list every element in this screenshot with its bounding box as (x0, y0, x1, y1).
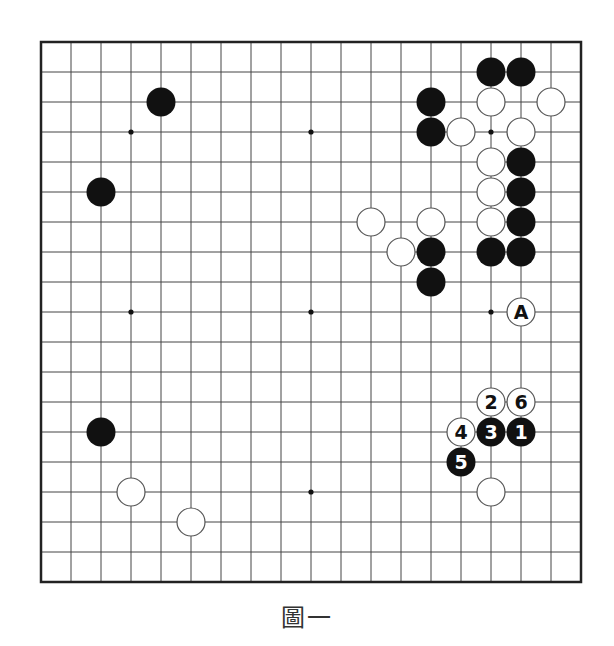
white-stone (477, 208, 505, 236)
black-stone-5: 5 (447, 448, 476, 477)
black-stone (507, 148, 536, 177)
star-point (128, 129, 133, 134)
stone-label: 3 (484, 421, 497, 443)
star-point (308, 489, 313, 494)
star-point (488, 309, 493, 314)
star-point (308, 309, 313, 314)
star-point (488, 129, 493, 134)
white-stone (477, 88, 505, 116)
white-stone (477, 478, 505, 506)
go-board: A264315 (0, 0, 614, 600)
white-stone-2: 2 (477, 388, 505, 416)
white-stone (177, 508, 205, 536)
black-stone (477, 238, 506, 267)
black-stone (147, 88, 176, 117)
black-stone (417, 238, 446, 267)
white-stone-6: 6 (507, 388, 535, 416)
white-stone-A: A (507, 298, 535, 326)
white-stone (417, 208, 445, 236)
black-stone (417, 88, 446, 117)
star-point (128, 309, 133, 314)
black-stone (507, 178, 536, 207)
black-stone (417, 118, 446, 147)
black-stone (477, 58, 506, 87)
white-stone (537, 88, 565, 116)
black-stone (507, 238, 536, 267)
white-stone (387, 238, 415, 266)
stone-label: 5 (454, 451, 467, 473)
stone-label: 4 (454, 421, 467, 443)
stone-label: 1 (514, 421, 527, 443)
black-stone (507, 58, 536, 87)
white-stone (357, 208, 385, 236)
black-stone (507, 208, 536, 237)
white-stone (477, 178, 505, 206)
black-stone-1: 1 (507, 418, 536, 447)
black-stone (417, 268, 446, 297)
white-stone-4: 4 (447, 418, 475, 446)
white-stone (477, 148, 505, 176)
black-stone (87, 418, 116, 447)
stone-label: A (514, 301, 529, 323)
black-stone-3: 3 (477, 418, 506, 447)
stone-label: 6 (514, 391, 527, 413)
star-point (308, 129, 313, 134)
white-stone (447, 118, 475, 146)
white-stone (507, 118, 535, 146)
figure-caption: 圖一 (0, 598, 614, 633)
stone-label: 2 (484, 391, 497, 413)
black-stone (87, 178, 116, 207)
stones: A264315 (87, 58, 566, 537)
white-stone (117, 478, 145, 506)
